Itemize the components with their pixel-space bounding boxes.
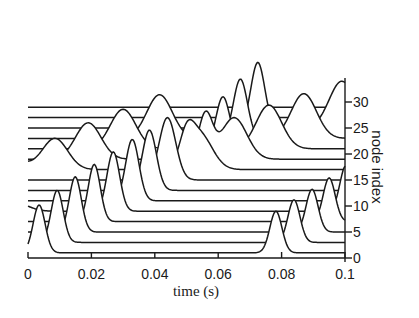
x-tick-label: 0.02: [78, 266, 105, 282]
x-tick-label: 0.1: [335, 266, 355, 282]
y-tick-label: 5: [353, 224, 361, 240]
y-ticks: 051015202530: [345, 94, 369, 266]
y-tick-label: 30: [353, 94, 369, 110]
trace-group: [28, 62, 345, 253]
x-axis-title: time (s): [173, 283, 219, 300]
x-tick-label: 0.08: [268, 266, 295, 282]
y-axis-title: node index: [369, 130, 386, 204]
x-ticks: 00.020.040.060.080.1: [24, 252, 355, 282]
x-tick-label: 0.06: [205, 266, 232, 282]
y-tick-label: 25: [353, 120, 369, 136]
waterfall-chart: 00.020.040.060.080.1 051015202530 time (…: [0, 0, 419, 318]
y-tick-label: 20: [353, 146, 369, 162]
x-tick-label: 0: [24, 266, 32, 282]
y-tick-label: 0: [353, 250, 361, 266]
x-tick-label: 0.04: [141, 266, 168, 282]
y-tick-label: 15: [353, 172, 369, 188]
y-tick-label: 10: [353, 198, 369, 214]
